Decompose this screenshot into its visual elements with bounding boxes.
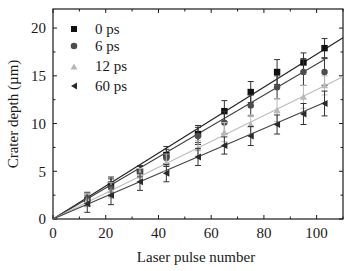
data-point xyxy=(300,69,306,75)
x-tick-label: 80 xyxy=(256,225,271,241)
legend-label: 6 ps xyxy=(95,38,120,54)
data-point xyxy=(274,69,280,75)
y-tick-label: 5 xyxy=(39,164,47,180)
fit-line-6ps xyxy=(53,60,325,219)
legend: 0 ps 6 ps 12 ps 60 ps xyxy=(71,21,128,94)
fit-line-60ps xyxy=(53,103,325,219)
y-tick-label: 10 xyxy=(31,116,46,132)
legend-label: 0 ps xyxy=(95,21,120,37)
x-tick-label: 20 xyxy=(98,225,113,241)
series-60ps xyxy=(84,91,328,212)
data-point xyxy=(321,45,327,51)
y-axis-label: Crater depth (µm) xyxy=(5,60,22,169)
y-tick-label: 20 xyxy=(31,20,46,36)
data-point xyxy=(195,133,201,139)
x-tick-label: 60 xyxy=(204,225,219,241)
legend-item-0ps: 0 ps xyxy=(71,21,120,37)
legend-label: 12 ps xyxy=(95,58,127,74)
x-tick-label: 0 xyxy=(49,225,57,241)
triangle-up-icon xyxy=(71,64,78,70)
data-point xyxy=(248,89,254,95)
y-tick-labels: 0 5 10 15 20 xyxy=(31,20,46,227)
square-icon xyxy=(71,26,77,32)
triangle-left-icon xyxy=(71,83,77,90)
x-axis-label: Laser pulse number xyxy=(137,249,255,265)
y-tick-label: 15 xyxy=(31,68,46,84)
legend-item-12ps: 12 ps xyxy=(71,58,128,74)
data-point xyxy=(274,84,280,90)
circle-icon xyxy=(71,43,78,50)
x-tick-label: 100 xyxy=(305,225,328,241)
legend-item-60ps: 60 ps xyxy=(71,78,127,94)
legend-item-6ps: 6 ps xyxy=(71,38,120,54)
data-point xyxy=(248,102,254,108)
data-point xyxy=(221,129,228,136)
x-tick-labels: 0 20 40 60 80 100 xyxy=(49,225,328,241)
data-point xyxy=(300,93,307,100)
legend-label: 60 ps xyxy=(95,78,127,94)
x-tick-label: 40 xyxy=(151,225,166,241)
data-point xyxy=(321,69,327,75)
y-tick-label: 0 xyxy=(39,211,47,227)
series-12ps xyxy=(84,76,328,207)
crater-depth-chart: 0 20 40 60 80 100 0 5 10 15 20 Laser pul… xyxy=(0,0,352,271)
